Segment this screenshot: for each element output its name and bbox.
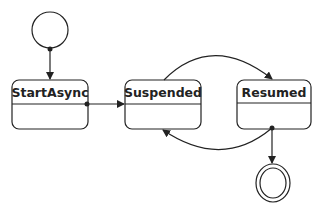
state-diagram: StartAsync Suspended Resumed (0, 0, 313, 207)
state-label-startasync: StartAsync (11, 85, 88, 100)
state-label-suspended: Suspended (124, 85, 202, 100)
state-suspended[interactable]: Suspended (124, 80, 202, 129)
initial-state[interactable] (32, 12, 68, 48)
transition-startasync-to-suspended (85, 102, 125, 107)
state-resumed[interactable]: Resumed (237, 80, 311, 129)
final-state[interactable] (256, 164, 290, 202)
transition-initial-to-startasync (48, 47, 53, 80)
transition-suspended-to-resumed (164, 56, 272, 80)
state-startasync[interactable]: StartAsync (11, 80, 88, 129)
state-label-resumed: Resumed (242, 85, 307, 100)
